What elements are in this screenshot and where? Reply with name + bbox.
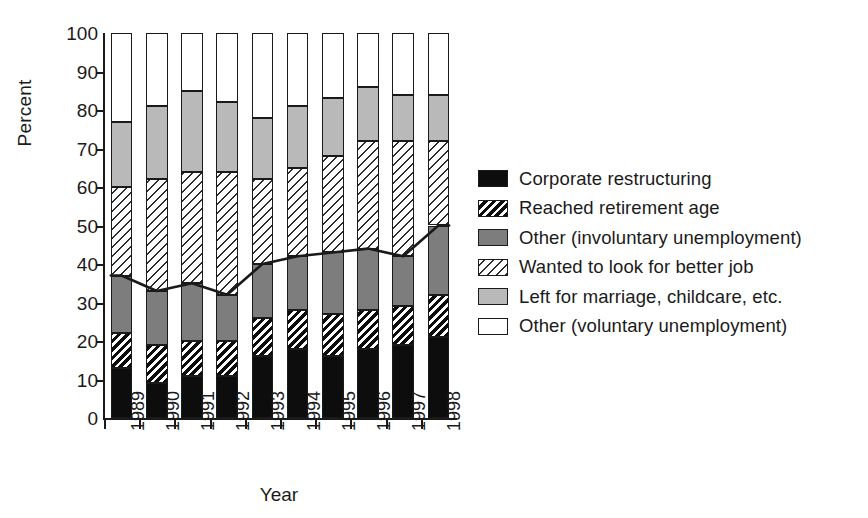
bar-segment (252, 118, 274, 180)
bar-segment (287, 33, 309, 106)
x-axis-tick-label: 1998 (445, 391, 463, 431)
chart-legend: Corporate restructuringReached retiremen… (478, 164, 802, 341)
bar-segment (287, 168, 309, 257)
x-axis-tick-label: 1994 (305, 391, 323, 431)
bar-segment (392, 33, 414, 95)
y-axis-tick-mark (96, 226, 103, 228)
y-axis-tick-label: 70 (46, 139, 98, 158)
bar-segment (428, 95, 450, 141)
bar-segment (322, 314, 344, 356)
bar-1990 (146, 33, 168, 418)
x-axis-tick-label: 1993 (269, 391, 287, 431)
bar-segment (111, 333, 133, 368)
bar-segment (181, 341, 203, 376)
x-axis-tick-label: 1997 (410, 391, 428, 431)
legend-swatch-icon (478, 170, 508, 187)
y-axis-tick-mark (96, 264, 103, 266)
bar-segment (252, 33, 274, 118)
legend-swatch-icon (478, 259, 508, 276)
bar-segment (322, 33, 344, 98)
y-axis-tick-label: 40 (46, 255, 98, 274)
y-axis-tick-mark (96, 303, 103, 305)
bar-segment (111, 122, 133, 187)
bar-1991 (181, 33, 203, 418)
y-axis-tick-labels: 0102030405060708090100 (46, 0, 98, 518)
bar-segment (146, 33, 168, 106)
legend-item: Corporate restructuring (478, 164, 802, 194)
legend-label: Reached retirement age (519, 197, 720, 219)
plot-area (103, 33, 455, 418)
y-axis-tick-label: 80 (46, 101, 98, 120)
y-axis-title: Percent (14, 28, 38, 198)
x-axis-title: Year (103, 484, 455, 506)
bar-segment (216, 172, 238, 295)
bar-segment (322, 156, 344, 252)
legend-item: Reached retirement age (478, 194, 802, 224)
y-axis-tick-label: 60 (46, 178, 98, 197)
legend-label: Wanted to look for better job (519, 256, 754, 278)
stacked-bar-chart-figure: Percent 0102030405060708090100 198919901… (0, 0, 868, 518)
bar-segment (181, 91, 203, 172)
legend-label: Other (voluntary unemployment) (519, 315, 787, 337)
y-axis-tick-mark (96, 149, 103, 151)
legend-swatch-icon (478, 200, 508, 217)
bar-segment (111, 33, 133, 122)
legend-label: Corporate restructuring (519, 168, 712, 190)
bar-segment (428, 33, 450, 95)
y-axis-tick-label: 30 (46, 293, 98, 312)
y-axis-tick-label: 100 (46, 24, 98, 43)
bar-1992 (216, 33, 238, 418)
y-axis-tick-label: 10 (46, 370, 98, 389)
y-axis-line (103, 33, 105, 420)
bar-1998 (428, 33, 450, 418)
bar-segment (146, 291, 168, 345)
bar-segment (181, 283, 203, 341)
bar-segment (216, 341, 238, 376)
y-axis-tick-mark (96, 187, 103, 189)
x-axis-tick-label: 1996 (375, 391, 393, 431)
legend-item: Wanted to look for better job (478, 253, 802, 283)
bar-segment (146, 106, 168, 179)
x-axis-tick-label: 1992 (234, 391, 252, 431)
y-axis-tick-mark (96, 380, 103, 382)
y-axis-tick-label: 0 (46, 409, 98, 428)
bar-segment (216, 33, 238, 102)
bar-segment (287, 256, 309, 310)
bar-segment (287, 310, 309, 349)
bar-segment (357, 87, 379, 141)
x-axis-tick-label: 1990 (164, 391, 182, 431)
legend-item: Left for marriage, childcare, etc. (478, 282, 802, 312)
legend-swatch-icon (478, 288, 508, 305)
bar-segment (357, 310, 379, 349)
legend-swatch-icon (478, 318, 508, 335)
bar-1989 (111, 33, 133, 418)
bar-segment (357, 249, 379, 311)
bar-1997 (392, 33, 414, 418)
bar-segment (322, 252, 344, 314)
legend-item: Other (voluntary unemployment) (478, 312, 802, 342)
y-axis-tick-label: 50 (46, 216, 98, 235)
y-axis-tick-mark (96, 341, 103, 343)
bar-1995 (322, 33, 344, 418)
legend-item: Other (involuntary unemployment) (478, 223, 802, 253)
x-axis-tick-label: 1995 (340, 391, 358, 431)
bar-segment (111, 187, 133, 276)
bar-1994 (287, 33, 309, 418)
y-axis-tick-label: 90 (46, 62, 98, 81)
bar-segment (357, 33, 379, 87)
bar-1996 (357, 33, 379, 418)
bar-segment (146, 345, 168, 384)
bar-segment (181, 172, 203, 284)
legend-label: Other (involuntary unemployment) (519, 227, 802, 249)
bar-segment (392, 256, 414, 306)
bar-segment (111, 276, 133, 334)
bar-segment (216, 102, 238, 171)
bar-segment (392, 141, 414, 257)
y-axis-tick-mark (96, 110, 103, 112)
bar-segment (252, 179, 274, 264)
y-axis-tick-mark (96, 72, 103, 74)
x-axis-tick-mark (104, 420, 106, 429)
bar-segment (428, 226, 450, 295)
bar-segment (252, 264, 274, 318)
bar-segment (146, 179, 168, 291)
